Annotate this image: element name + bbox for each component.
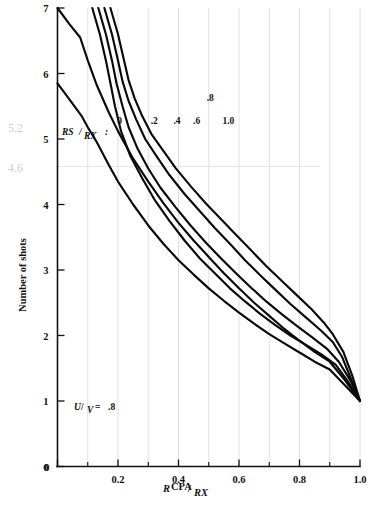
x-axis-title-group: R CPA / RX bbox=[162, 481, 209, 498]
y-tick-label: 1 bbox=[43, 396, 48, 407]
y-axis-ticks bbox=[58, 8, 65, 467]
curve-label-0_8: .8 bbox=[207, 93, 214, 103]
parameter-annotation-group: U / V = .8 bbox=[74, 402, 115, 415]
x-tick-label: 0.6 bbox=[232, 474, 245, 485]
x-tick-label: 0.2 bbox=[111, 474, 124, 485]
x-axis-title-numerator: R bbox=[162, 483, 170, 494]
line-chart: 5.24.6 01234567 00.20.40.60.81.0 0.2.4.6… bbox=[0, 0, 376, 513]
legend-title-slash: / bbox=[78, 127, 83, 137]
legend-title-numerator: RS bbox=[61, 127, 74, 137]
x-axis-title-denominator: RX bbox=[193, 487, 209, 498]
y-axis-tick-labels: 01234567 bbox=[43, 3, 49, 473]
parameter-value: .8 bbox=[108, 402, 115, 412]
curve-label-0_4: .4 bbox=[173, 116, 180, 126]
curve-label-0: 0 bbox=[117, 116, 122, 126]
x-tick-label: 0.8 bbox=[293, 474, 306, 485]
y-axis-title: Number of shots bbox=[17, 238, 28, 312]
y-tick-label: 4 bbox=[43, 200, 49, 211]
x-tick-label: 0 bbox=[44, 462, 49, 473]
y-tick-label: 3 bbox=[43, 265, 48, 276]
curve-0_8 bbox=[104, 8, 360, 401]
x-tick-label: 1.0 bbox=[353, 474, 366, 485]
x-axis-tick-labels: 00.20.40.60.81.0 bbox=[44, 462, 366, 485]
curve-label-1_0: 1.0 bbox=[222, 116, 234, 126]
handwritten-annotation: 4.6 bbox=[8, 161, 23, 175]
curve-0_6 bbox=[98, 8, 360, 401]
parameter-slash: / bbox=[80, 402, 84, 412]
curve-label-0_6: .6 bbox=[193, 116, 200, 126]
legend-title-denominator: RX bbox=[83, 131, 97, 141]
y-tick-label: 5 bbox=[43, 134, 48, 145]
figure-container: 5.24.6 01234567 00.20.40.60.81.0 0.2.4.6… bbox=[0, 0, 376, 513]
parameter-denominator: V bbox=[87, 405, 94, 415]
legend-title-colon: : bbox=[105, 127, 108, 137]
y-tick-label: 2 bbox=[43, 331, 48, 342]
handwritten-annotations: 5.24.6 bbox=[8, 121, 23, 175]
curve-label-0_2: .2 bbox=[151, 116, 158, 126]
parameter-equals: = bbox=[95, 402, 100, 412]
handwritten-annotation: 5.2 bbox=[8, 121, 23, 135]
y-tick-label: 7 bbox=[43, 3, 48, 14]
y-tick-label: 6 bbox=[43, 69, 48, 80]
legend-title-group: RS / RX : bbox=[61, 127, 108, 141]
